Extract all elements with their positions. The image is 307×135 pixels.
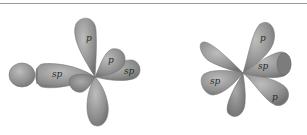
label-p-side: p [108,55,114,65]
right-orbital-view: p sp sp p [200,22,291,116]
orbital-figure: p p sp sp p sp sp p [0,0,307,135]
p-lobe-bottom [243,73,289,106]
orbital-diagram: p p sp sp p sp sp p [0,0,307,135]
label-p-top: p [260,33,266,43]
sp-small-lobe-left [9,63,35,87]
label-sp-center: sp [258,61,269,71]
label-p-top: p [86,33,92,43]
label-sp-left: sp [52,69,63,79]
sp-lobe-upper-left [200,42,243,73]
label-sp-right: sp [124,66,135,76]
label-sp-left: sp [210,76,221,86]
label-p-bottom: p [272,92,278,102]
sp-lobe-right-cap [277,53,291,75]
left-orbital-view: p p sp sp [9,18,140,126]
